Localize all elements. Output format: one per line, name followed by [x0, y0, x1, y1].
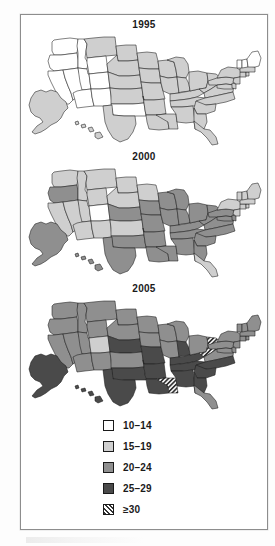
state-mt [84, 301, 117, 322]
us-map-svg-2000 [21, 162, 267, 280]
state-wa [52, 170, 78, 187]
state-ks [110, 220, 144, 236]
legend-swatch [103, 441, 114, 452]
state-co [89, 336, 110, 353]
state-mn [137, 316, 159, 333]
state-ri [246, 204, 249, 208]
state-nd [116, 177, 138, 193]
state-wy [87, 320, 108, 338]
state-ny [217, 331, 243, 342]
state-az [73, 353, 94, 372]
state-mt [84, 37, 117, 58]
state-me [247, 315, 261, 331]
map-canvas-2000 [21, 162, 267, 280]
state-ok [111, 367, 146, 380]
state-md [217, 84, 234, 89]
state-nj [233, 341, 240, 348]
scan-artifact [26, 537, 146, 543]
state-vt [237, 60, 242, 68]
map-canvas-2005 [21, 294, 267, 412]
state-wy [87, 188, 108, 206]
state-wa [52, 302, 78, 319]
legend-swatch [103, 504, 114, 515]
state-nm [91, 352, 112, 370]
state-ok [111, 103, 146, 116]
legend-item: 25–29 [21, 478, 267, 499]
state-nd [116, 45, 138, 61]
legend-label: ≥30 [123, 504, 140, 515]
state-mn [137, 52, 159, 69]
state-nm [91, 220, 112, 238]
state-ia [139, 200, 161, 215]
legend-label: 15–19 [123, 441, 152, 452]
map-panel-1995: 1995 [21, 17, 267, 149]
state-ri [246, 72, 249, 76]
legend-label: 25–29 [123, 483, 152, 494]
legend-swatch [103, 420, 114, 431]
map-canvas-1995 [21, 30, 267, 148]
us-map-svg-1995 [21, 30, 267, 148]
state-ks [110, 88, 144, 104]
state-me [247, 51, 261, 67]
map-year-label-2005: 2005 [21, 283, 267, 294]
state-co [89, 72, 110, 89]
legend-item: ≥30 [21, 499, 267, 520]
state-or [48, 317, 78, 335]
state-nd [116, 309, 138, 325]
state-vt [237, 324, 242, 332]
state-hi [75, 385, 103, 403]
state-md [217, 216, 234, 221]
state-ct [240, 72, 246, 77]
state-hi [75, 253, 103, 271]
state-ia [139, 332, 161, 347]
legend: 10–14 15–19 20–24 25–29 ≥30 [21, 415, 267, 520]
state-ia [139, 68, 161, 83]
state-in [177, 341, 190, 357]
state-hi [75, 121, 103, 139]
state-nj [233, 209, 240, 216]
state-in [177, 77, 190, 93]
figure-frame: 1995 2000 2005 10–14 [20, 14, 268, 530]
legend-label: 10–14 [123, 420, 152, 431]
legend-item: 20–24 [21, 457, 267, 478]
state-or [48, 185, 78, 203]
state-ok [111, 235, 146, 248]
state-ks [110, 352, 144, 368]
state-wy [87, 56, 108, 74]
state-me [247, 183, 261, 199]
state-mn [137, 184, 159, 201]
map-panel-2005: 2005 [21, 281, 267, 413]
map-year-label-1995: 1995 [21, 19, 267, 30]
figure-page: 1995 2000 2005 10–14 [0, 0, 275, 546]
state-nm [91, 88, 112, 106]
state-mt [84, 169, 117, 190]
legend-swatch [103, 483, 114, 494]
state-ct [240, 336, 246, 341]
state-ct [240, 204, 246, 209]
state-vt [237, 192, 242, 200]
map-year-label-2000: 2000 [21, 151, 267, 162]
legend-item: 10–14 [21, 415, 267, 436]
legend-swatch [103, 462, 114, 473]
map-panel-2000: 2000 [21, 149, 267, 281]
legend-item: 15–19 [21, 436, 267, 457]
state-wa [52, 38, 78, 55]
state-ri [246, 336, 249, 340]
state-or [48, 53, 78, 71]
legend-label: 20–24 [123, 462, 152, 473]
state-az [73, 221, 94, 240]
us-map-svg-2005 [21, 294, 267, 412]
state-co [89, 204, 110, 221]
state-nj [233, 77, 240, 84]
state-az [73, 89, 94, 108]
state-in [177, 209, 190, 225]
state-ny [217, 199, 243, 210]
state-ny [217, 67, 243, 78]
state-md [217, 348, 234, 353]
